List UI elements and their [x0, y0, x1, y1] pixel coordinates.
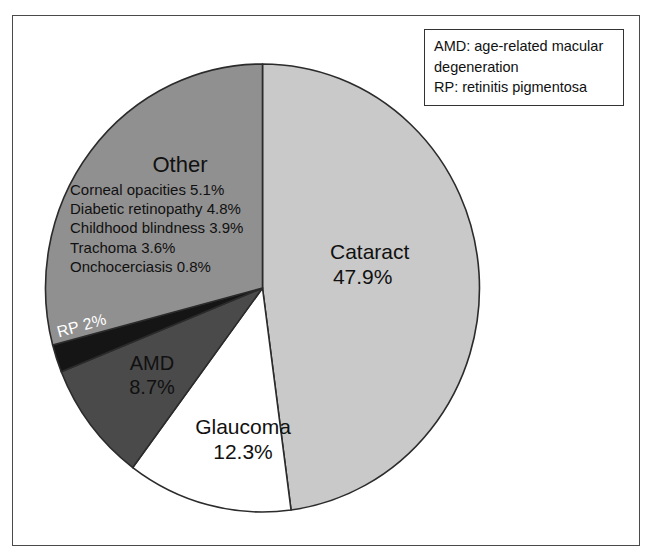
legend-line: AMD: age-related macular — [434, 36, 615, 57]
slice-label-amd-value: 8.7% — [104, 376, 200, 400]
legend-line: RP: retinitis pigmentosa — [434, 77, 615, 98]
slice-label-other: Other Corneal opacities 5.1% Diabetic re… — [70, 152, 290, 276]
slice-label-glaucoma-value: 12.3% — [168, 440, 318, 465]
figure-root: Cataract 47.9% Glaucoma 12.3% AMD 8.7% R… — [0, 0, 657, 555]
list-item: Diabetic retinopathy 4.8% — [70, 199, 290, 218]
slice-label-glaucoma: Glaucoma 12.3% — [168, 415, 318, 465]
list-item: Trachoma 3.6% — [70, 238, 290, 257]
slice-label-other-title: Other — [70, 152, 290, 178]
legend-line: degeneration — [434, 57, 615, 78]
slice-label-amd: AMD 8.7% — [104, 352, 200, 399]
other-breakdown-list: Corneal opacities 5.1% Diabetic retinopa… — [70, 180, 290, 276]
slice-label-cataract-name: Cataract — [330, 240, 409, 265]
slice-label-amd-name: AMD — [104, 352, 200, 376]
list-item: Onchocerciasis 0.8% — [70, 257, 290, 276]
list-item: Corneal opacities 5.1% — [70, 180, 290, 199]
list-item: Childhood blindness 3.9% — [70, 218, 290, 237]
slice-label-cataract: Cataract 47.9% — [330, 240, 409, 290]
legend-abbreviation-box: AMD: age-related macular degeneration RP… — [424, 29, 624, 106]
slice-label-glaucoma-name: Glaucoma — [168, 415, 318, 440]
slice-label-cataract-value: 47.9% — [330, 265, 409, 290]
